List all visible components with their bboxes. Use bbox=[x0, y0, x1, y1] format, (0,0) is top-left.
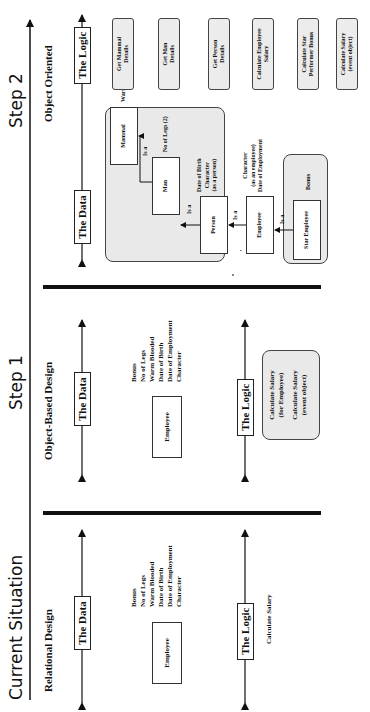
method-calc-star-bonus: Calculate StarPerformer Bonus bbox=[297, 18, 319, 90]
method-get-man-details: Get ManDetails bbox=[158, 18, 180, 90]
is-a-label-man-mammal: Is a bbox=[142, 147, 150, 156]
method-get-mammal-details: Get MammalDetails bbox=[112, 18, 134, 90]
method-calc-employee-salary: Calculate EmployeeSalary bbox=[252, 18, 274, 90]
is-a-connectors bbox=[0, 0, 370, 712]
method-get-person-details: Get PersonDetails bbox=[208, 18, 230, 90]
diagram-canvas: Current Situation Step 1 Step 2 Relation… bbox=[0, 0, 370, 712]
is-a-label-employee-person: Is a bbox=[232, 211, 240, 220]
is-a-label-person-man: Is a bbox=[186, 205, 194, 214]
is-a-label-star-employee: Is a bbox=[279, 215, 287, 224]
method-calc-salary-event: Calculate Salary(event object) bbox=[336, 18, 358, 90]
